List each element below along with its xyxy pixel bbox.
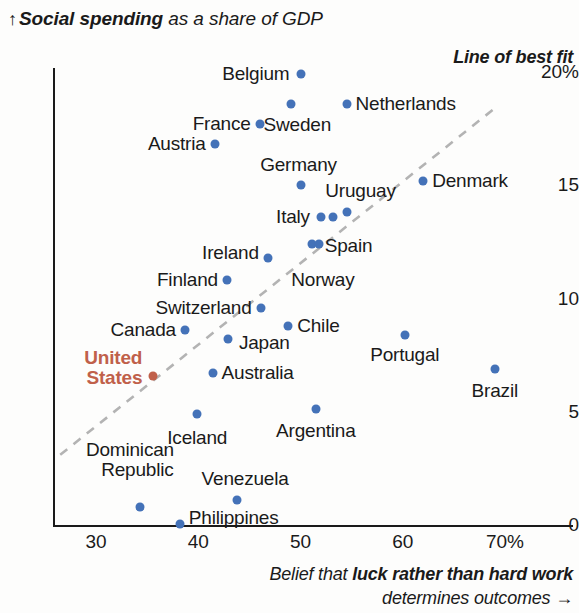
data-point-label: Finland [157,270,218,290]
data-point-dot[interactable] [342,99,351,108]
data-point-label: Brazil [472,381,518,401]
data-point-label: France [193,114,251,134]
x-tick-label: 50 [290,531,311,553]
y-axis-line [53,68,55,527]
data-point-dot[interactable] [311,405,320,414]
y-tick-label: 0 [531,514,579,536]
data-point-dot[interactable] [342,208,351,217]
plot-area: 20%151050 3040506070% BelgiumNetherlands… [0,0,579,613]
x-tick-label: 40 [188,531,209,553]
data-point-dot[interactable] [314,240,323,249]
right-arrow-icon: → [555,588,573,608]
data-point-dot[interactable] [233,496,242,505]
x-tick-label: 60 [392,531,413,553]
y-tick-label: 5 [531,401,579,423]
data-point-label: Portugal [370,345,439,365]
data-point-dot[interactable] [180,326,189,335]
x-tick-label: 70% [486,531,524,553]
data-point-label: Norway [291,270,354,290]
data-point-label: Australia [222,363,294,383]
data-point-label: Venezuela [202,469,289,489]
y-tick-label: 20% [531,61,579,83]
data-point-dot[interactable] [400,330,409,339]
data-point-dot[interactable] [135,502,144,511]
y-tick-label: 15 [531,174,579,196]
data-point-label: Switzerland [156,298,252,318]
x-axis-line [53,525,573,527]
data-point-dot[interactable] [193,410,202,419]
data-point-label: Argentina [276,421,356,441]
data-point-label: Iceland [167,428,227,448]
x-axis-caption-emphasis: luck rather than hard work [352,564,573,584]
data-point-label: Canada [111,320,176,340]
data-point-dot[interactable] [316,212,325,221]
x-axis-caption: Belief that luck rather than hard work d… [13,562,573,610]
social-spending-scatter-chart: ↑Social spending as a share of GDP Line … [0,0,579,613]
data-point-label: Sweden [264,115,331,135]
data-point-label: Uruguay [325,181,395,201]
data-point-dot[interactable] [149,371,158,380]
y-tick-label: 10 [531,288,579,310]
data-point-dot[interactable] [296,70,305,79]
data-point-dot[interactable] [208,369,217,378]
data-point-dot[interactable] [329,212,338,221]
data-point-label: Austria [148,134,206,154]
data-point-label: Chile [297,316,339,336]
data-point-dot[interactable] [419,176,428,185]
data-point-label: Philippines [189,508,279,528]
data-point-label: Ireland [202,243,259,263]
data-point-dot[interactable] [287,99,296,108]
data-point-label: Denmark [432,171,508,191]
data-point-dot[interactable] [255,120,264,129]
data-point-dot[interactable] [296,181,305,190]
data-point-label: Netherlands [356,94,456,114]
data-point-label: Japan [239,333,290,353]
data-point-label: Italy [276,207,310,227]
x-axis-caption-line2: determines outcomes [382,588,555,608]
data-point-dot[interactable] [490,364,499,373]
data-point-dot[interactable] [284,321,293,330]
data-point-dot[interactable] [256,303,265,312]
data-point-dot[interactable] [175,519,184,528]
data-point-dot[interactable] [223,335,232,344]
data-point-dot[interactable] [263,253,272,262]
data-point-dot[interactable] [210,140,219,149]
data-point-label: Spain [325,236,373,256]
data-point-label: Dominican Republic [86,440,174,480]
x-axis-caption-prefix: Belief that [269,564,352,584]
trend-line-svg [0,0,579,613]
data-point-label: United States [84,348,142,388]
data-point-label: Germany [260,155,337,175]
data-point-dot[interactable] [222,276,231,285]
x-tick-label: 30 [85,531,106,553]
data-point-label: Belgium [222,64,289,84]
